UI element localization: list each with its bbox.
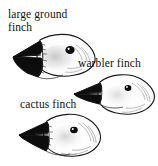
eye-highlight bbox=[72, 128, 74, 130]
eye-highlight bbox=[68, 48, 70, 50]
finch-beak-figure: large ground finch bbox=[0, 0, 158, 166]
upper-mandible bbox=[13, 41, 42, 57]
eye bbox=[70, 127, 78, 134]
label-cactus-finch: cactus finch bbox=[20, 98, 98, 111]
eye-highlight bbox=[126, 86, 128, 88]
lower-mandible bbox=[13, 57, 43, 77]
label-warbler-finch: warbler finch bbox=[78, 57, 156, 70]
illustration-cactus-finch bbox=[17, 110, 103, 160]
eye bbox=[65, 46, 74, 54]
cheek-shading bbox=[51, 125, 83, 149]
lower-mandible bbox=[19, 135, 49, 151]
eye bbox=[125, 85, 132, 91]
upper-mandible bbox=[74, 83, 102, 94]
upper-mandible bbox=[19, 122, 49, 135]
